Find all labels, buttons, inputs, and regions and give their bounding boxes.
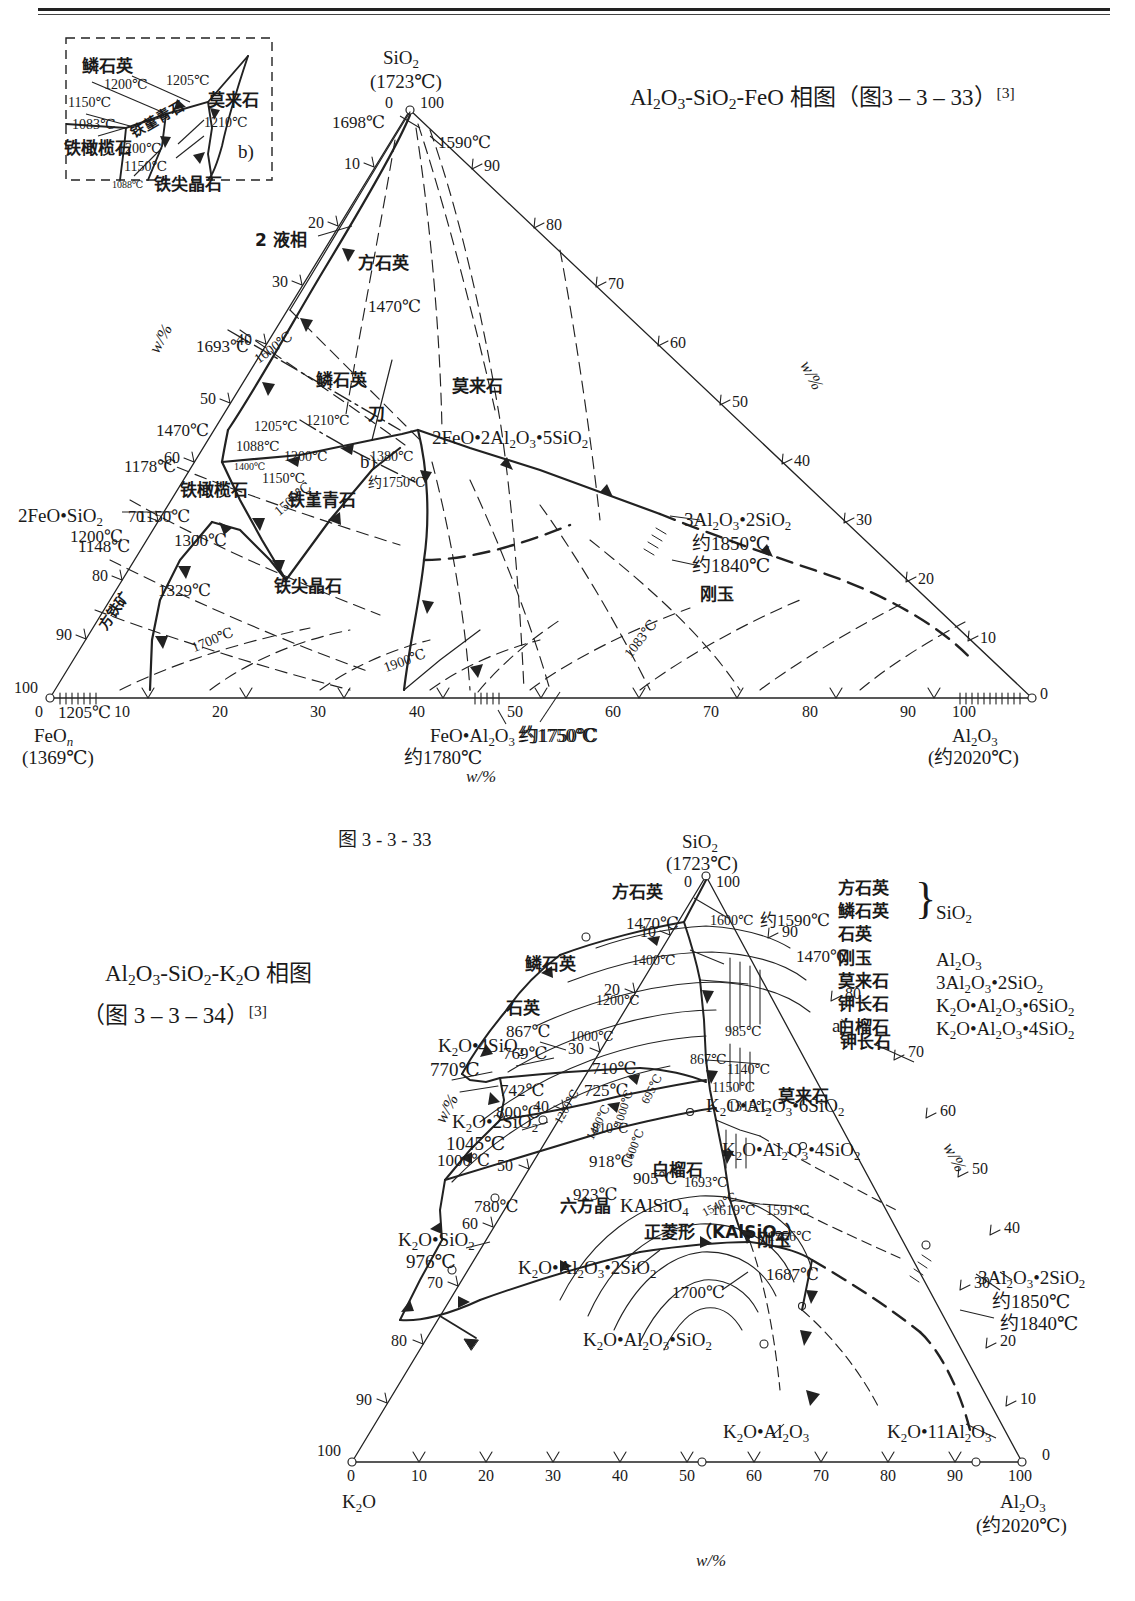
fig1-temp-1380: 约1750℃	[368, 476, 426, 491]
inset-temp-1205: 1205℃	[166, 74, 210, 89]
fig2-compound-mullite-right-t2: 约1840℃	[1000, 1314, 1078, 1334]
inset-temp-1200b: 1200℃	[118, 142, 162, 157]
fig2-temp-1700: 1700℃	[672, 1284, 725, 1302]
fig2-temp-1600: 1600℃	[710, 914, 754, 929]
fig1-bottom-tick-80: 80	[802, 704, 818, 721]
fig1-corner-left-formula: FeOn	[34, 726, 73, 748]
fig2-legend-formula-sio2: SiO2	[936, 903, 972, 925]
fig1-apex-tick-right: 100	[420, 95, 444, 112]
fig2-left-tick-90: 90	[356, 1392, 372, 1409]
fig2-temp-780: 780℃	[474, 1198, 519, 1216]
fig1-apex-temp: (1723℃)	[370, 72, 442, 92]
fig2-field-tridymite: 鳞石英	[525, 956, 576, 974]
fig2-apex-tick-left: 0	[684, 874, 692, 891]
fig2-right-tick-10: 10	[1020, 1391, 1036, 1408]
figure1-title: Al2O3-SiO2-FeO 相图（图3 – 3 – 33）[3]	[630, 85, 1015, 113]
fig2-bottom-tick-100: 100	[1008, 1468, 1032, 1485]
fig2-compound-kalsio4-int: K2O•Al2O3•SiO2	[583, 1330, 712, 1352]
figure2-title-line2: （图 3 – 3 – 34）[3]	[82, 1003, 267, 1028]
fig2-temp-1470a: 1470℃	[626, 915, 679, 933]
fig2-bottom-tick-30: 30	[545, 1468, 561, 1485]
fig1-corner-right-formula: Al2O3	[952, 726, 998, 748]
fig2-field-orthoclase: 钾长石	[840, 1034, 891, 1052]
fig1-temp-1205: 1200℃	[70, 528, 123, 546]
fig2-compound-k2o4sio2: K2O•4SiO2	[438, 1036, 524, 1058]
fig2-tag-a: a)	[832, 1016, 847, 1036]
fig2-temp-1200a: 1200℃	[596, 994, 640, 1009]
fig1-compound-iron-cordierite: 2FeO•2Al2O3•5SiO2	[432, 428, 588, 450]
inset-temp-1088: 1088℃	[112, 180, 143, 191]
fig2-field-quartz: 石英	[506, 1000, 540, 1018]
fig1-temp-1088: 1400℃	[234, 462, 265, 473]
fig1-field-corundum: 刚玉	[700, 586, 734, 604]
fig1-corner-left-temp: (1369℃)	[22, 748, 94, 768]
fig1-temp-1470b: 1470℃	[156, 422, 209, 440]
fig1-temp-1210: 1380℃	[370, 450, 414, 465]
fig1-left-tick-90: 90	[56, 627, 72, 644]
fig1-temp-1470a: 1470℃	[368, 298, 421, 316]
fig2-axis-unit-bottom: w/%	[696, 1552, 726, 1570]
fig1-bottom-tick-60: 60	[605, 704, 621, 721]
fig2-legend-formula-orthoclase: K2O•Al2O3•6SiO2	[936, 996, 1074, 1018]
fig2-bottom-tick-20: 20	[478, 1468, 494, 1485]
fig1-left-tick-100: 100	[14, 680, 38, 697]
fig1-right-tick-90: 90	[484, 158, 500, 175]
fig1-temp-1150: 1300℃	[174, 532, 227, 550]
inset-temp-1150b: 1150℃	[124, 160, 167, 175]
fig2-temp-867b: 867℃	[690, 1053, 727, 1068]
fig2-left-tick-50: 50	[497, 1158, 513, 1175]
fig1-left-tick-20: 20	[308, 215, 324, 232]
fig1-hercynite-temp-right: 约1750℃	[518, 726, 596, 746]
fig1-right-tick-10: 10	[980, 630, 996, 647]
fig1-compound-mullite-temp2: 约1840℃	[692, 556, 770, 576]
fig1-compound-mullite-temp1: 约1850℃	[692, 534, 770, 554]
inset-temp-1150: 1150℃	[68, 96, 111, 111]
fig1-corner-right-temp: (约2020℃)	[928, 748, 1019, 768]
fig1-corner-right-tick100: 100	[952, 704, 976, 721]
fig2-left-tick-80: 80	[391, 1333, 407, 1350]
fig2-temp-1000b: 1000℃	[437, 1152, 490, 1170]
fig1-field-tridymite: 鳞石英	[316, 372, 367, 390]
fig2-compound-kalsi2o6: K2O•Al2O3•2SiO2	[518, 1258, 656, 1280]
fig2-legend-mineral-1: 鳞石英	[838, 903, 889, 921]
inset-temp-1083: 1083℃	[72, 118, 116, 133]
fig1-left-tick-30: 30	[272, 274, 288, 291]
fig2-temp-905: 905℃	[633, 1170, 678, 1188]
fig1-bottom-tick-50: 50	[507, 704, 523, 721]
fig2-bottom-tick-0: 0	[347, 1468, 355, 1485]
fig2-bottom-tick-80: 80	[880, 1468, 896, 1485]
fig1-corner-right-tick0: 0	[1040, 686, 1048, 703]
fig2-right-tick-50: 50	[972, 1161, 988, 1178]
inset-label-mullite: 莫来石	[208, 92, 259, 110]
inset-label-tridymite: 鳞石英	[82, 58, 133, 76]
fig1-temp-1083: 1088℃	[236, 440, 280, 455]
fig1-right-tick-70: 70	[608, 276, 624, 293]
fig2-temp-985: 985℃	[725, 1025, 762, 1040]
fig1-temp-1205b: 1210℃	[306, 414, 350, 429]
fig2-bottom-tick-10: 10	[411, 1468, 427, 1485]
fig2-bottom-tick-70: 70	[813, 1468, 829, 1485]
fig2-legend-formula-al2o3: Al2O3	[936, 950, 982, 972]
fig2-field-cristobalite: 方石英	[612, 884, 663, 902]
fig1-inset-tag-ref: b)	[360, 452, 376, 472]
fig2-legend-brace: }	[915, 884, 936, 915]
fig2-legend-mineral-5: 钾长石	[838, 996, 889, 1014]
fig1-field-hercynite: 铁尖晶石	[274, 578, 342, 596]
inset-temp-1210: 1210℃	[204, 116, 248, 131]
fig1-field-mullite: 莫来石	[452, 378, 503, 396]
fig2-compound-leucite: K2O•Al2O3•4SiO2	[722, 1140, 860, 1162]
fig1-compound-hercynite-temp: 约1780℃	[404, 748, 482, 768]
fig2-temp-1591: 1591℃	[766, 1204, 810, 1219]
fig1-left-tick-10: 10	[344, 156, 360, 173]
fig2-temp-1590: 约1590℃	[760, 912, 830, 930]
fig2-compound-mullite-right-t1: 约1850℃	[992, 1292, 1070, 1312]
fig1-temp-1400: 1205℃	[254, 420, 298, 435]
fig1-field-fayalite: 铁橄榄石	[180, 482, 248, 500]
fig2-legend-mineral-2: 石英	[838, 926, 872, 944]
fig1-bottom-tick-10: 10	[114, 704, 130, 721]
fig1-bottom-tick-40: 40	[409, 704, 425, 721]
fig1-apex-tick-left: 0	[385, 95, 393, 112]
fig1-right-tick-60: 60	[670, 335, 686, 352]
fig2-bottom-tick-60: 60	[746, 1468, 762, 1485]
fig2-right-tick-60: 60	[940, 1103, 956, 1120]
